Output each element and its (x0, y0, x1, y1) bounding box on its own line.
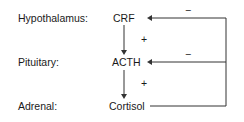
arrowhead-left-icon (147, 59, 152, 65)
arrowhead-down-icon (121, 94, 127, 99)
arrowhead-left-icon (147, 15, 152, 21)
arrowhead-down-icon (121, 50, 127, 55)
arrows-layer (0, 0, 244, 122)
